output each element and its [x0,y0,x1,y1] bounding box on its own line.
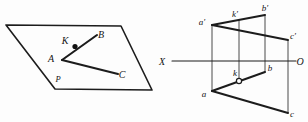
point-k-marker [72,44,77,49]
label-point-c: C [119,69,126,80]
segment-aprime-to-cprime [212,25,288,40]
geometry-figure-svg: A K B C P X O a′ [0,0,308,122]
label-point-k: K [61,35,70,46]
label-axis-x: X [158,56,166,67]
label-point-k-lower: k [233,68,238,78]
left-diagram-group: A K B C P [6,25,152,90]
label-point-k-prime: k′ [232,9,239,19]
segment-a-to-c-lower [212,91,288,113]
label-point-a-prime: a′ [199,17,207,27]
label-point-c-prime: c′ [290,31,297,41]
label-plane-p: P [54,74,60,84]
plane-parallelogram [6,25,152,90]
label-point-c-lower: c [290,109,294,119]
label-point-b-prime: b′ [262,3,270,13]
right-diagram-group: X O a′ k′ b′ c′ a k b c [158,3,304,119]
label-axis-o: O [296,56,303,67]
point-k-ring-marker [236,78,241,83]
segment-a-to-c [62,60,118,74]
label-point-a: A [47,53,55,64]
label-point-a-lower: a [202,89,207,99]
label-point-b-lower: b [268,63,273,73]
label-point-b: B [98,29,104,40]
figure-root: A K B C P X O a′ [0,0,308,122]
